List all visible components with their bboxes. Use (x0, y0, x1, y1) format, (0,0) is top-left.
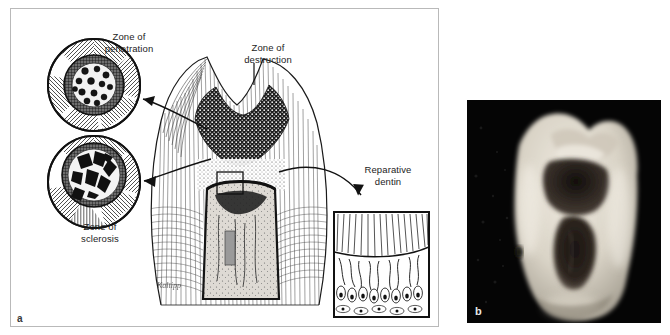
label-zone-of-sclerosis: Zone of sclerosis (57, 221, 143, 244)
panel-label-b: b (475, 305, 482, 317)
label-zone-of-penetration: Zone of penetration (79, 31, 179, 54)
sclerosis-inset (48, 136, 140, 228)
artist-signature: Kaltipp (157, 281, 203, 292)
panel-b-photograph: b (467, 100, 661, 323)
sectioned-tooth-photo (467, 100, 661, 323)
figure-root: Zone of penetration Zone of destruction … (0, 0, 670, 335)
pulp-chamber (203, 172, 279, 299)
panel-label-a: a (17, 313, 23, 324)
label-zone-of-destruction: Zone of destruction (223, 42, 313, 65)
label-reparative-dentin: Reparative dentin (345, 164, 431, 187)
reparative-dentin-inset (334, 212, 429, 317)
panel-a-illustration: Zone of penetration Zone of destruction … (10, 8, 439, 327)
